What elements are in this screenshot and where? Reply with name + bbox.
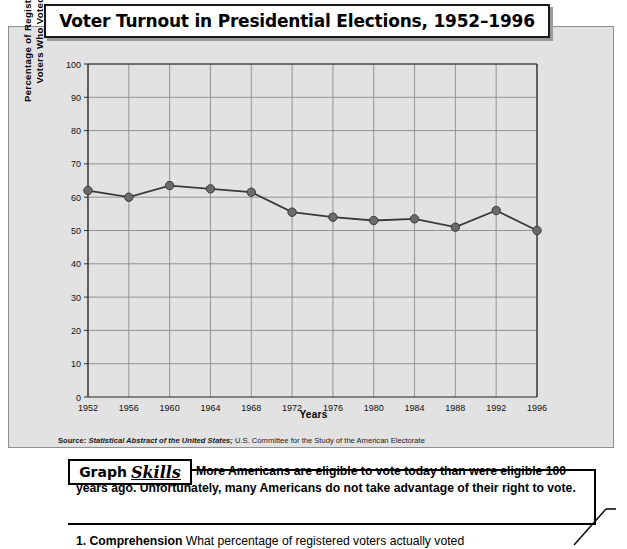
- svg-text:30: 30: [71, 293, 81, 303]
- svg-text:20: 20: [71, 326, 81, 336]
- svg-text:70: 70: [71, 159, 81, 169]
- data-point: [329, 213, 337, 221]
- svg-text:10: 10: [71, 359, 81, 369]
- data-point: [492, 206, 500, 214]
- data-point: [533, 226, 541, 234]
- svg-text:100: 100: [66, 60, 81, 70]
- svg-text:60: 60: [71, 193, 81, 203]
- chart-gridlines: [88, 64, 537, 397]
- graph-skills-block: Graph Skills More Americans are eligible…: [68, 459, 627, 547]
- data-point: [451, 223, 459, 231]
- source-note: Source: Statistical Abstract of the Unit…: [58, 436, 425, 445]
- question-text: What percentage of registered voters act…: [186, 534, 464, 548]
- data-point: [125, 193, 133, 201]
- page-fold-mark: [572, 505, 618, 547]
- chart-area: 0102030405060708090100 19521956196019641…: [8, 26, 614, 448]
- line-chart-svg: 0102030405060708090100 19521956196019641…: [8, 26, 614, 448]
- source-rest: U.S. Committee for the Study of the Amer…: [233, 436, 425, 445]
- source-label: Source:: [58, 436, 86, 445]
- y-axis-tick-labels: 0102030405060708090100: [66, 60, 81, 403]
- svg-text:40: 40: [71, 259, 81, 269]
- source-publication: Statistical Abstract of the United State…: [88, 436, 232, 445]
- data-point: [84, 186, 92, 194]
- data-point: [206, 185, 214, 193]
- graph-skills-tag: Graph Skills: [68, 459, 192, 485]
- svg-text:80: 80: [71, 126, 81, 136]
- data-point: [370, 216, 378, 224]
- question-label: Comprehension: [90, 534, 183, 548]
- chart-title-banner: Voter Turnout in Presidential Elections,…: [44, 4, 550, 38]
- question-1: 1. Comprehension What percentage of regi…: [76, 533, 616, 549]
- page-title: Voter Turnout in Presidential Elections,…: [59, 11, 535, 31]
- y-axis-title: Percentage of Registered Voters Who Vote…: [22, 0, 46, 140]
- data-point: [247, 188, 255, 196]
- svg-text:90: 90: [71, 93, 81, 103]
- data-point: [288, 208, 296, 216]
- data-point: [410, 215, 418, 223]
- svg-text:50: 50: [71, 226, 81, 236]
- turnout-line: [88, 186, 537, 231]
- x-axis-title: Years: [0, 409, 627, 420]
- y-axis-title-line1: Percentage of Registered: [22, 0, 34, 140]
- turnout-data-points: [84, 181, 541, 234]
- graph-skills-word-graph: Graph: [79, 464, 127, 480]
- data-point: [165, 181, 173, 189]
- svg-text:0: 0: [76, 393, 81, 403]
- graph-skills-word-skills: Skills: [131, 463, 181, 482]
- question-number: 1.: [76, 534, 86, 548]
